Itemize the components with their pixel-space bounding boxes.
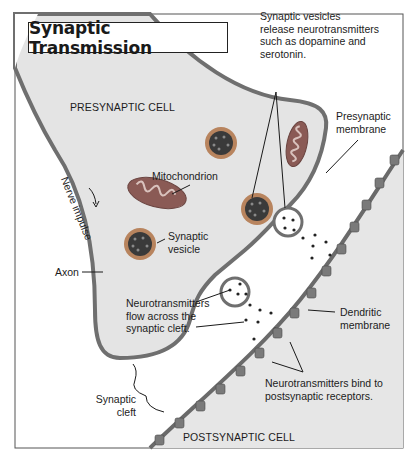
synaptic-vesicle <box>205 127 237 159</box>
page-title: Synaptic Transmission <box>29 18 227 58</box>
label-mitochondrion: Mitochondrion <box>152 170 218 183</box>
docking-vesicle-upper <box>274 208 302 236</box>
label-synaptic-vesicle: Synaptic vesicle <box>168 230 208 255</box>
synaptic-vesicle <box>124 228 156 260</box>
label-presynaptic-cell: PRESYNAPTIC CELL <box>70 101 175 114</box>
label-presynaptic-membrane: Presynaptic membrane <box>336 110 391 135</box>
title-box: Synaptic Transmission <box>28 22 228 53</box>
label-vesicles-release: Synaptic vesicles release neurotransmitt… <box>260 10 379 60</box>
label-nt-flow: Neurotransmitters flow across the synapt… <box>126 297 209 335</box>
label-synaptic-cleft: Synaptic cleft <box>94 393 136 418</box>
label-nt-bind: Neurotransmitters bind to postsynaptic r… <box>265 377 383 402</box>
label-dendritic-membrane: Dendritic membrane <box>340 306 390 331</box>
synaptic-vesicle <box>241 193 273 225</box>
label-postsynaptic-cell: POSTSYNAPTIC CELL <box>183 431 295 444</box>
label-axon: Axon <box>55 266 79 279</box>
